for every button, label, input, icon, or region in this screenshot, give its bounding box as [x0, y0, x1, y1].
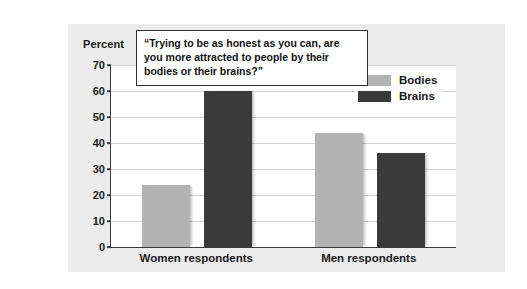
y-tick-label: 0 — [99, 241, 105, 253]
bar-brains-men — [377, 153, 425, 247]
legend-swatch-icon — [358, 91, 391, 102]
y-tick-label: 20 — [93, 189, 105, 201]
legend-label: Brains — [399, 90, 435, 102]
bar-bodies-men — [315, 133, 363, 247]
gridline — [111, 247, 456, 248]
y-tick-label: 10 — [93, 215, 105, 227]
y-tick-label: 40 — [93, 137, 105, 149]
x-axis-label: Women respondents — [139, 252, 253, 264]
legend-item: Bodies — [358, 72, 437, 88]
y-tick-label: 60 — [93, 85, 105, 97]
y-tick-label: 70 — [93, 59, 105, 71]
bar-brains-women — [204, 91, 252, 247]
legend-item: Brains — [358, 88, 437, 104]
chart-title-box: “Trying to be as honest as you can, are … — [136, 30, 368, 86]
y-axis-caption: Percent — [83, 38, 124, 50]
y-tick-label: 30 — [93, 163, 105, 175]
bar-bodies-women — [142, 185, 190, 247]
legend-label: Bodies — [399, 74, 437, 86]
x-axis-label: Men respondents — [321, 252, 416, 264]
y-tick-label: 50 — [93, 111, 105, 123]
